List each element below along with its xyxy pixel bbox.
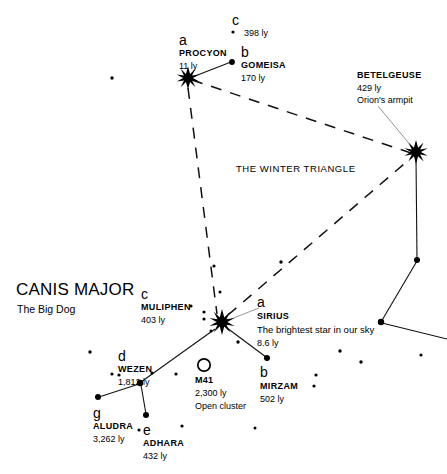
label-betelgeuse-note: Orion's armpit — [357, 95, 413, 106]
star-dot-orion-mid[interactable] — [414, 257, 420, 263]
triangle-edge-sirius-betelgeuse — [228, 158, 411, 315]
label-mirzam-name: MIRZAM — [260, 381, 298, 392]
label-wezen-greek: d — [118, 348, 126, 365]
label-mirzam-distance: 502 ly — [260, 394, 284, 405]
star-dot-adhara[interactable] — [143, 412, 149, 418]
line-betelgeuse-down — [416, 158, 417, 260]
label-adhara-distance: 432 ly — [143, 451, 167, 462]
background-star — [212, 264, 215, 267]
label-procyon-name: PROCYON — [179, 48, 227, 59]
background-star — [236, 340, 239, 343]
winter-triangle-lines — [188, 80, 411, 315]
label-betelgeuse-name: BETELGEUSE — [357, 70, 422, 81]
label-muliphen-distance: 403 ly — [141, 315, 165, 326]
label-mirzam-greek: b — [260, 364, 268, 381]
line-procyon-gomeisa — [195, 62, 231, 76]
background-star — [180, 424, 183, 427]
label-procyon-greek: a — [179, 32, 187, 49]
label-aludra-greek: g — [93, 405, 101, 422]
background-star — [202, 317, 205, 320]
leader-betelgeuse — [378, 106, 412, 147]
background-star — [88, 350, 91, 353]
background-star — [419, 353, 422, 356]
triangle-edge-procyon-sirius — [188, 88, 217, 314]
background-star — [279, 260, 282, 263]
label-adhara-greek: e — [143, 422, 151, 439]
background-star — [338, 349, 341, 352]
label-adhara-name: ADHARA — [143, 438, 184, 449]
star-chart: c 398 ly a PROCYON 11 ly b GOMEISA 170 l… — [0, 0, 447, 474]
label-m41-name: M41 — [195, 375, 213, 386]
label-sirius-name: SIRIUS — [257, 311, 289, 322]
label-gomeisa-distance: 170 ly — [241, 73, 265, 84]
background-star — [110, 76, 113, 79]
line-wezen-adhara — [141, 385, 146, 414]
label-star-c-top-distance: 398 ly — [244, 28, 268, 39]
line-orion-mid — [381, 261, 417, 322]
label-sirius-note: The brightest star in our sky — [257, 324, 374, 335]
label-star-c-top-greek: c — [232, 12, 239, 29]
background-star — [202, 310, 205, 313]
star-dot-mirzam[interactable] — [264, 355, 270, 361]
background-star — [231, 30, 234, 33]
label-m41-distance: 2,300 ly — [195, 388, 227, 399]
label-aludra-distance: 3,262 ly — [93, 434, 125, 445]
star-dot-orion-lower[interactable] — [378, 319, 384, 325]
page-title: CANIS MAJOR — [16, 280, 134, 300]
background-star — [210, 330, 213, 333]
label-gomeisa-name: GOMEISA — [241, 60, 286, 71]
label-sirius-distance: 8.6 ly — [257, 338, 279, 349]
constellation-subtitle: The Big Dog — [17, 303, 75, 315]
background-star — [219, 291, 222, 294]
star-dot-aludra[interactable] — [95, 394, 101, 400]
background-star — [314, 373, 317, 376]
label-betelgeuse-distance: 429 ly — [357, 83, 381, 94]
background-star — [110, 372, 113, 375]
m41-open-cluster-symbol[interactable] — [198, 359, 210, 371]
label-aludra-name: ALUDRA — [93, 421, 133, 432]
label-procyon-distance: 11 ly — [179, 61, 197, 72]
label-gomeisa-greek: b — [241, 44, 249, 61]
label-winter-triangle: THE WINTER TRIANGLE — [236, 163, 356, 174]
background-star — [359, 360, 362, 363]
label-sirius-greek: a — [257, 294, 265, 311]
label-muliphen-name: MULIPHEN — [141, 302, 191, 313]
line-orion-lower — [382, 323, 447, 339]
constellation-lines — [99, 62, 447, 414]
background-star — [137, 428, 140, 431]
leader-lines — [231, 106, 412, 319]
label-wezen-distance: 1,812 ly — [118, 377, 150, 388]
label-m41-note: Open cluster — [195, 401, 246, 412]
background-star — [312, 384, 315, 387]
background-star — [174, 372, 177, 375]
label-wezen-name: WEZEN — [118, 364, 152, 375]
star-dot-gomeisa[interactable] — [229, 59, 235, 65]
background-star — [254, 427, 257, 430]
label-muliphen-greek: c — [141, 286, 148, 303]
